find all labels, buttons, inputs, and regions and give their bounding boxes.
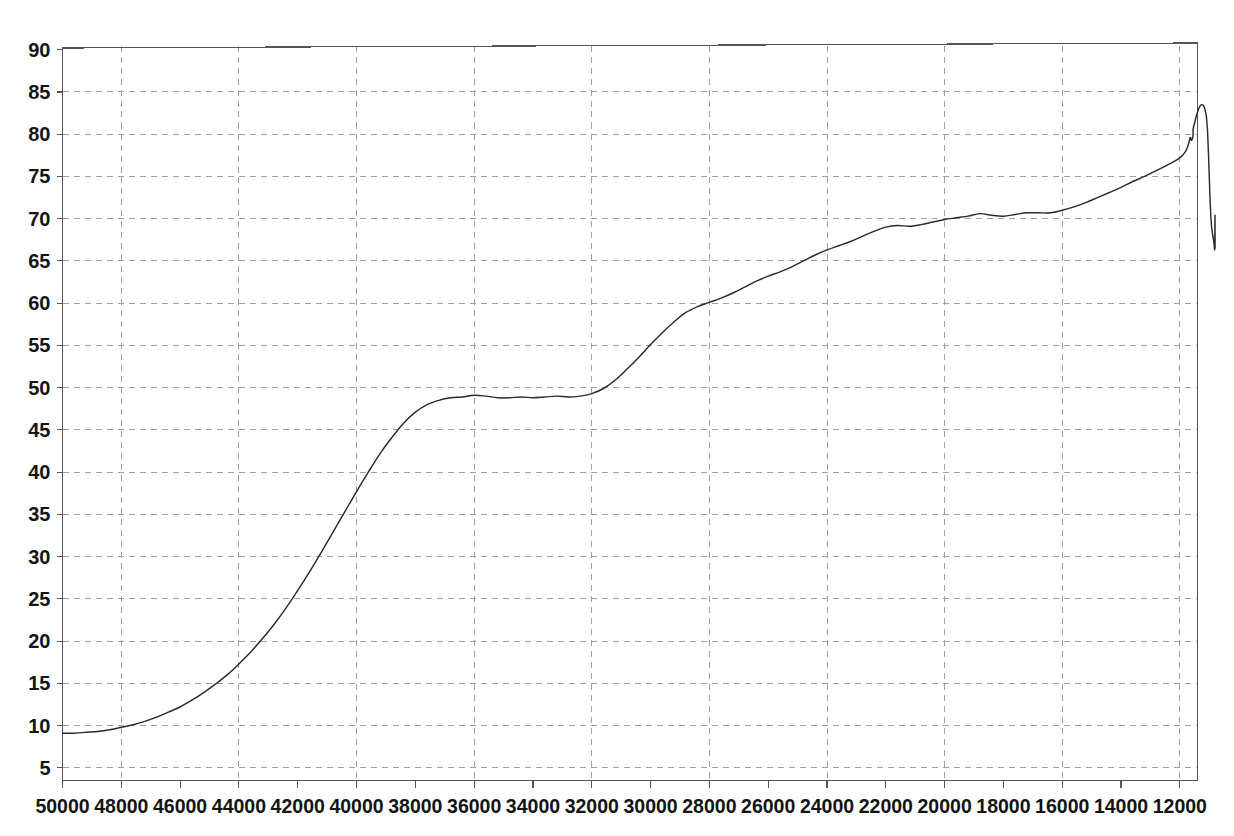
y-axis-label: 90 (28, 39, 50, 61)
x-axis-label: 36000 (447, 795, 501, 817)
y-axis-label: 75 (28, 165, 50, 187)
y-axis-label: 30 (28, 546, 50, 568)
line-chart: 90858075706560555045403530252015105 5000… (0, 0, 1234, 836)
y-axis-label: 15 (28, 672, 50, 694)
x-axis-label: 16000 (1035, 795, 1089, 817)
x-axis-label: 44000 (212, 795, 266, 817)
x-axis-label: 12000 (1153, 795, 1207, 817)
chart-background (0, 0, 1234, 836)
y-axis-label: 70 (28, 208, 50, 230)
x-axis-label: 50000 (35, 795, 89, 817)
chart-container: 90858075706560555045403530252015105 5000… (0, 0, 1234, 836)
x-axis-label: 42000 (271, 795, 325, 817)
y-axis-label: 60 (28, 292, 50, 314)
y-axis-label: 5 (39, 757, 50, 779)
y-axis-label: 65 (28, 250, 50, 272)
y-axis-label: 35 (28, 503, 50, 525)
x-axis-label: 24000 (800, 795, 854, 817)
y-axis-label: 80 (28, 123, 50, 145)
x-axis-label: 34000 (506, 795, 560, 817)
x-axis-label: 48000 (94, 795, 148, 817)
x-axis-label: 18000 (976, 795, 1030, 817)
y-axis-label: 25 (28, 588, 50, 610)
x-axis-label: 28000 (682, 795, 736, 817)
x-axis-label: 14000 (1094, 795, 1148, 817)
y-axis-label: 10 (28, 715, 50, 737)
y-axis-label: 85 (28, 81, 50, 103)
y-axis-label: 20 (28, 630, 50, 652)
x-axis-label: 46000 (153, 795, 207, 817)
y-axis-label: 55 (28, 334, 50, 356)
x-axis-label: 40000 (329, 795, 383, 817)
x-axis-label: 38000 (388, 795, 442, 817)
x-axis-label: 22000 (859, 795, 913, 817)
y-axis-label: 40 (28, 461, 50, 483)
x-axis-label: 32000 (565, 795, 619, 817)
x-axis-label: 30000 (623, 795, 677, 817)
y-axis-label: 50 (28, 377, 50, 399)
y-axis-label: 45 (28, 419, 50, 441)
x-axis-label: 26000 (741, 795, 795, 817)
x-axis-label: 20000 (918, 795, 972, 817)
